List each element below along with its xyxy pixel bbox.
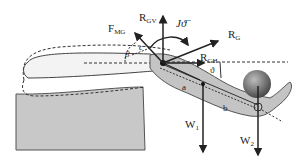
label-r-gv: RGV	[139, 11, 156, 25]
label-r-gh: RGH	[200, 51, 217, 65]
label-theta: ϑ	[210, 65, 215, 75]
label-w1: W1	[185, 118, 199, 132]
theta-arc	[220, 62, 221, 78]
moment-arc	[150, 37, 188, 48]
label-b: b	[223, 103, 228, 113]
ball	[243, 70, 271, 98]
w1-point	[201, 82, 205, 86]
label-w2: W2	[240, 134, 254, 148]
label-c: c	[139, 42, 143, 52]
label-beta: β	[124, 49, 130, 59]
support-table	[16, 87, 145, 150]
label-r-g: RG	[228, 28, 240, 42]
biomechanics-diagram: FMG RGV Jϑ̈ RG RGH ϑ β c a b W1 W2	[0, 0, 308, 162]
label-a: a	[182, 82, 186, 92]
label-moment: Jϑ̈	[176, 17, 191, 29]
forearm	[24, 53, 171, 78]
label-f-mg: FMG	[108, 22, 125, 36]
